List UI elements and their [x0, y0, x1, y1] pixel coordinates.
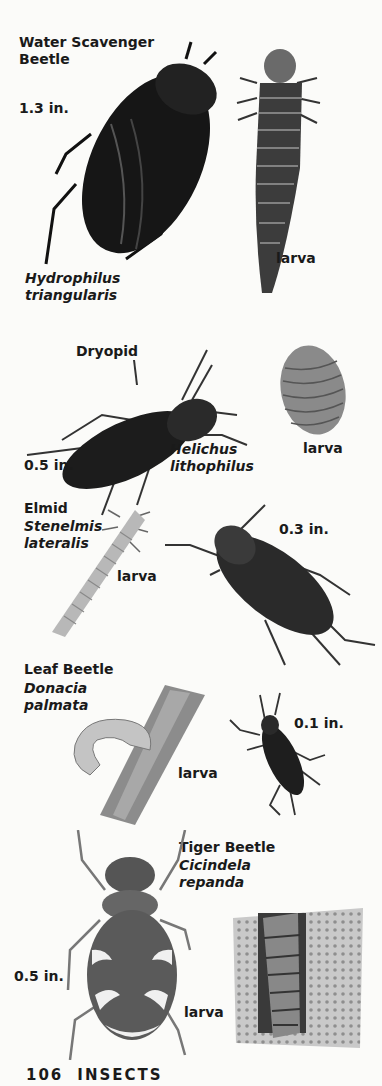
scientific-name-hydrophilus: Hydrophilus triangularis — [25, 270, 120, 304]
scientific-name-helichus: Helichus lithophilus — [170, 441, 254, 475]
dryopid-beetle-illustration — [22, 340, 252, 520]
size-label: 0.5 in. — [24, 457, 74, 474]
elmid-beetle-illustration — [160, 500, 382, 675]
tiger-beetle-illustration — [60, 830, 200, 1060]
section-title: INSECTS — [77, 1066, 162, 1084]
water-scavenger-beetle-illustration — [36, 34, 226, 274]
dryopid-larva-illustration — [275, 343, 355, 438]
tiger-beetle-larva-burrow-illustration — [228, 903, 368, 1053]
larva-label: larva — [276, 250, 316, 267]
size-label: 0.5 in. — [14, 968, 64, 985]
scientific-name-line: Hydrophilus — [25, 270, 120, 287]
page-number: 106 — [26, 1066, 63, 1084]
leaf-beetle-larva-illustration — [65, 685, 215, 825]
common-name-leaf-beetle: Leaf Beetle — [24, 661, 113, 678]
larva-label: larva — [178, 765, 218, 782]
larva-label: larva — [117, 568, 157, 585]
larva-label: larva — [303, 440, 343, 457]
larva-label: larva — [184, 1004, 224, 1021]
scientific-name-line: Helichus — [170, 441, 254, 458]
leaf-beetle-illustration — [225, 690, 335, 820]
page-footer: 106INSECTS — [26, 1066, 177, 1084]
scientific-name-line: lithophilus — [170, 458, 254, 475]
scientific-name-line: triangularis — [25, 287, 120, 304]
